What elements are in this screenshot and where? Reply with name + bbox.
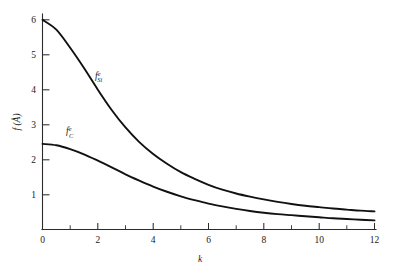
x-tick-label-6: 6	[206, 235, 211, 245]
y-tick-label-4: 4	[31, 85, 36, 95]
curve-label-si-subscript: Si	[97, 76, 102, 83]
x-tick-label-2: 2	[95, 235, 100, 245]
y-tick-label-2: 2	[31, 155, 36, 165]
chart-background	[0, 0, 401, 274]
curve-label-c-subscript: C	[69, 132, 74, 139]
y-tick-label-6: 6	[31, 15, 36, 25]
x-tick-label-10: 10	[314, 235, 324, 245]
y-axis-title: f (Å)	[11, 113, 23, 130]
y-tick-label-3: 3	[31, 120, 36, 130]
y-axis-title-paren-close: )	[12, 113, 23, 117]
y-tick-label-1: 1	[31, 190, 36, 200]
form-factor-chart: 1 2 3 4 5 6 0 2 4 6 8 10 12 k f (Å)	[0, 0, 401, 274]
x-tick-label-0: 0	[40, 235, 45, 245]
svg-text:f (Å): f (Å)	[11, 113, 23, 130]
y-tick-label-5: 5	[31, 50, 36, 60]
x-tick-label-4: 4	[151, 235, 156, 245]
x-tick-label-12: 12	[370, 235, 380, 245]
x-tick-label-8: 8	[261, 235, 266, 245]
